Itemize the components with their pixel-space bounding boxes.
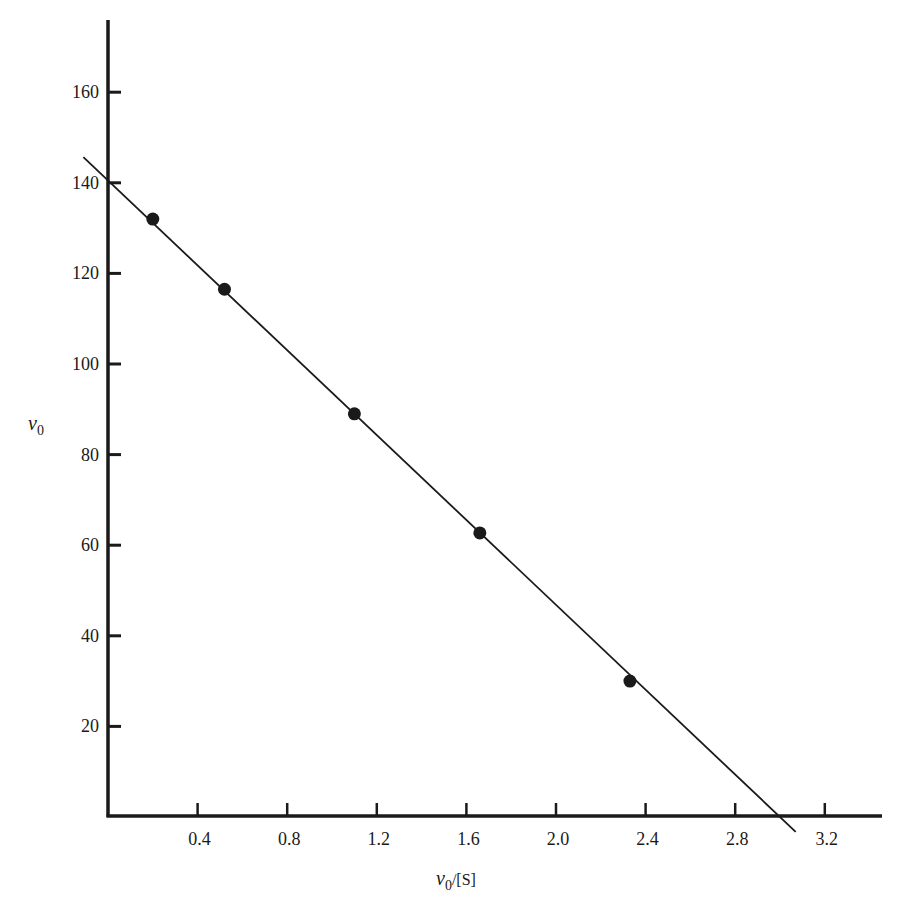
y-axis-label: v0 (28, 412, 44, 438)
y-tick-label: 100 (72, 354, 99, 374)
x-tick-label: 2.4 (636, 829, 659, 849)
y-tick-label: 140 (72, 173, 99, 193)
data-point (623, 675, 636, 688)
eadie-hofstee-chart: 20406080100120140160 0.40.81.21.62.02.42… (0, 0, 905, 910)
y-tick-label: 40 (81, 626, 99, 646)
axes (107, 20, 883, 817)
x-tick-label: 0.8 (278, 829, 301, 849)
y-tick-label: 20 (81, 716, 99, 736)
x-tick-label: 1.6 (457, 829, 480, 849)
y-ticks: 20406080100120140160 (72, 82, 121, 736)
data-point (473, 526, 486, 539)
x-tick-label: 2.0 (547, 829, 570, 849)
x-tick-label: 3.2 (816, 829, 839, 849)
y-tick-label: 60 (81, 535, 99, 555)
data-point (348, 407, 361, 420)
y-tick-label: 120 (72, 263, 99, 283)
x-tick-label: 0.4 (188, 829, 211, 849)
y-tick-label: 160 (72, 82, 99, 102)
fit-line (83, 157, 795, 832)
data-point (146, 213, 159, 226)
y-tick-label: 80 (81, 445, 99, 465)
x-axis-label: v0/[S] (436, 867, 476, 893)
regression-line (83, 157, 795, 832)
data-point (218, 283, 231, 296)
x-tick-label: 2.8 (726, 829, 749, 849)
x-ticks: 0.40.81.21.62.02.42.83.2 (188, 803, 838, 849)
x-tick-label: 1.2 (368, 829, 391, 849)
